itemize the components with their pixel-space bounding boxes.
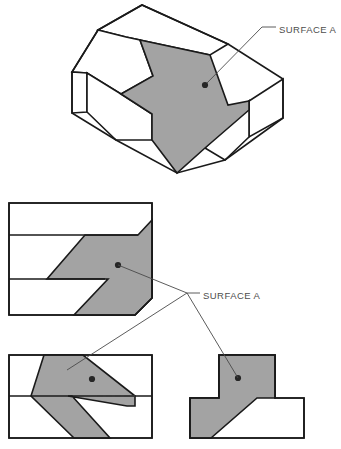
pictorial-surface-a-label: SURFACE A — [279, 24, 337, 35]
technical-drawing-canvas: SURFACE A — [0, 0, 341, 449]
top-view-group — [9, 203, 152, 315]
front-view-group — [9, 355, 152, 438]
pictorial-view-group — [72, 5, 283, 173]
pictorial-right-side-face — [249, 79, 283, 137]
pictorial-step-left-face — [72, 72, 87, 113]
pictorial-leader-group: SURFACE A — [202, 24, 337, 89]
front-view-surface-a-dot — [89, 376, 95, 382]
pictorial-surface-a-dot — [202, 82, 208, 88]
ortho-leader-branch-right — [187, 293, 238, 378]
right-view-group — [190, 355, 304, 438]
drawing-sheet: SURFACE A — [0, 0, 341, 449]
ortho-surface-a-label: SURFACE A — [203, 290, 261, 301]
